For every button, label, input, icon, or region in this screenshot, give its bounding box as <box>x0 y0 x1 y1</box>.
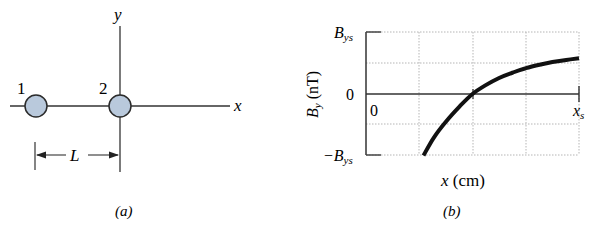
panel-a: y x 1 2 L (a) <box>10 5 242 220</box>
y-axis-label: y <box>112 5 122 24</box>
y-axis-title: By (nT) <box>304 71 323 118</box>
y-tick-zero: 0 <box>346 86 354 103</box>
y-tick-bottom: −Bys <box>323 147 353 166</box>
arrowhead-left-icon <box>36 152 46 159</box>
y-tick-top: Bys <box>334 24 353 43</box>
panel-a-caption: (a) <box>115 203 133 220</box>
particle-2 <box>109 95 131 117</box>
x-tick-end: xs <box>572 102 584 121</box>
x-axis-label: x <box>233 96 242 115</box>
panel-b-caption: (b) <box>443 203 461 220</box>
particle-1-label: 1 <box>17 79 26 98</box>
arrowhead-right-icon <box>109 152 119 159</box>
by-curve <box>424 58 580 155</box>
x-tick-origin: 0 <box>370 102 378 119</box>
figure: y x 1 2 L (a) <box>0 0 594 238</box>
dimension-label: L <box>69 146 79 165</box>
particle-1 <box>25 95 47 117</box>
particle-2-label: 2 <box>99 79 108 98</box>
x-axis-title: x (cm) <box>440 171 485 190</box>
panel-b: Bys 0 −Bys By (nT) 0 xs x (cm) (b) <box>304 24 584 220</box>
